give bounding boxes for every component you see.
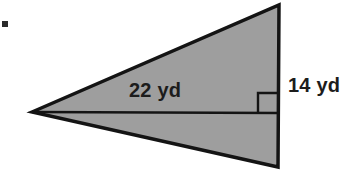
height-length-label: 14 yd: [288, 74, 340, 96]
base-length-label: 22 yd: [129, 79, 181, 101]
height-segment: [32, 112, 279, 113]
item-bullet: [2, 21, 8, 27]
triangle-diagram: 22 yd 14 yd: [0, 0, 347, 185]
figure-container: 22 yd 14 yd: [0, 0, 347, 185]
